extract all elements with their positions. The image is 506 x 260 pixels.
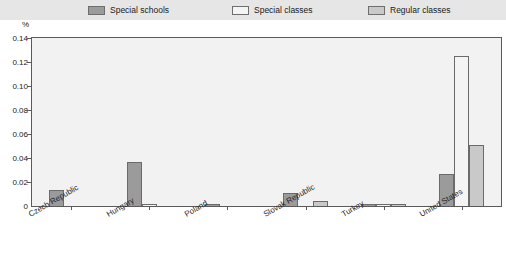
- bar-2[interactable]: [469, 145, 484, 206]
- x-axis-tick-mark: [149, 207, 150, 210]
- bar-1[interactable]: [376, 204, 391, 206]
- bar-group: [188, 38, 266, 206]
- y-axis-tick-label: 0.08: [0, 106, 28, 115]
- bar-group: [423, 38, 501, 206]
- y-axis-unit-label: %: [22, 20, 29, 29]
- legend-item-1[interactable]: Special classes: [232, 4, 313, 16]
- y-axis-tick-mark: [27, 62, 31, 63]
- y-axis-tick-label: 0: [0, 202, 28, 211]
- y-axis-tick-mark: [27, 134, 31, 135]
- y-axis-tick-label: 0.06: [0, 130, 28, 139]
- bar-group: [32, 38, 110, 206]
- x-axis-tick-mark: [462, 207, 463, 210]
- legend-item-2[interactable]: Regular classes: [368, 4, 450, 16]
- y-axis-tick-mark: [27, 182, 31, 183]
- y-axis-tick-label: 0.02: [0, 178, 28, 187]
- bar-group-bars: [345, 38, 423, 206]
- y-axis-tick-label: 0.12: [0, 58, 28, 67]
- y-axis-tick-label: 0.14: [0, 34, 28, 43]
- x-axis-tick-mark: [306, 207, 307, 210]
- x-axis-tick-mark: [384, 207, 385, 210]
- y-axis-tick-label: 0.10: [0, 82, 28, 91]
- x-axis-tick-mark: [227, 207, 228, 210]
- bar-group: [110, 38, 188, 206]
- bar-2[interactable]: [313, 201, 328, 206]
- bar-1[interactable]: [454, 56, 469, 206]
- bar-group-bars: [110, 38, 188, 206]
- plot-area: [31, 37, 502, 207]
- chart-root: Special schoolsSpecial classesRegular cl…: [0, 0, 506, 260]
- bar-group-bars: [423, 38, 501, 206]
- bar-group-bars: [188, 38, 266, 206]
- y-axis-tick-label: 0.04: [0, 154, 28, 163]
- chart-legend: Special schoolsSpecial classesRegular cl…: [0, 0, 506, 20]
- legend-swatch-icon: [232, 6, 249, 15]
- x-axis-tick-mark: [71, 207, 72, 210]
- legend-swatch-icon: [88, 6, 105, 15]
- bar-2[interactable]: [391, 204, 406, 206]
- legend-item-0[interactable]: Special schools: [88, 4, 169, 16]
- legend-label: Special schools: [110, 5, 169, 15]
- bar-group: [267, 38, 345, 206]
- legend-label: Special classes: [254, 5, 313, 15]
- legend-label: Regular classes: [390, 5, 450, 15]
- bar-group: [345, 38, 423, 206]
- plot-inner: [32, 38, 501, 206]
- y-axis-tick-mark: [27, 86, 31, 87]
- y-axis-tick-mark: [27, 110, 31, 111]
- y-axis-tick-mark: [27, 38, 31, 39]
- bar-group-bars: [32, 38, 110, 206]
- legend-swatch-icon: [368, 6, 385, 15]
- y-axis-tick-mark: [27, 158, 31, 159]
- bar-1[interactable]: [142, 204, 157, 206]
- bar-group-bars: [267, 38, 345, 206]
